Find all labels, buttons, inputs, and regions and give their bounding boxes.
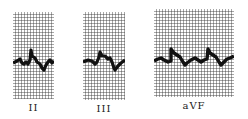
lead-label-iii: III [83,103,125,114]
ecg-grid-avf [154,9,234,97]
lead-label-ii: II [13,102,54,113]
lead-label-avf: aVF [154,100,234,111]
ecg-strip-lead-ii [13,12,54,99]
ecg-grid-ii [13,12,54,99]
ecg-strip-lead-avf [154,9,234,97]
ecg-grid-iii [83,12,125,100]
ecg-strip-lead-iii [83,12,125,100]
